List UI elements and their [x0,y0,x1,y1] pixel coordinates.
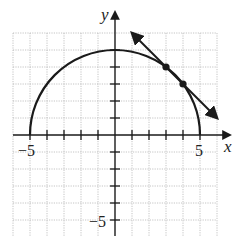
y-tick-label-neg5: −5 [89,213,106,230]
y-axis-label: y [99,5,109,24]
tangent-line [132,33,217,118]
point-3-4 [162,63,169,70]
point-4-3 [179,80,186,87]
x-tick-label-neg5: −5 [18,142,35,159]
x-axis-label: x [223,137,232,156]
x-tick-label-5: 5 [195,142,203,159]
graph-canvas: y x −5 5 −5 [0,0,233,236]
axes [13,12,230,236]
